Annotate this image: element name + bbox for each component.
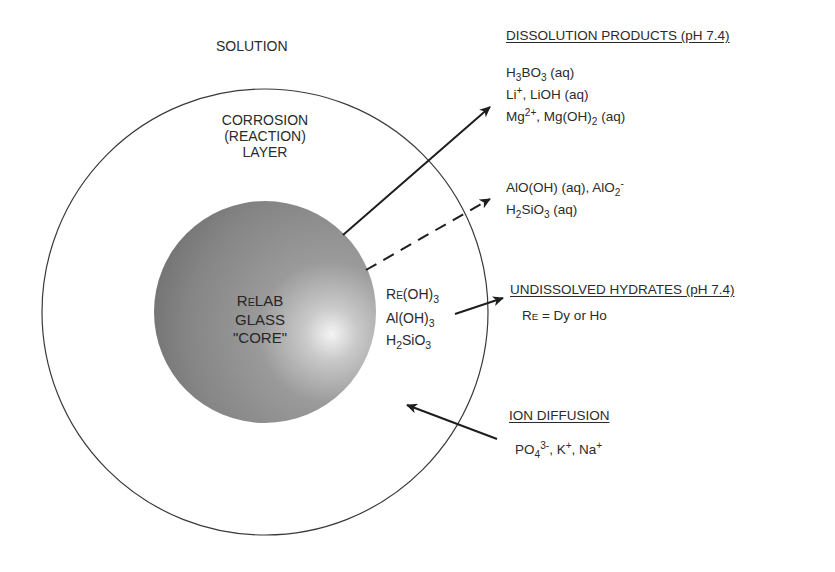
- corrosion-layer-label: CORROSION (REACTION) LAYER: [200, 112, 330, 160]
- undissolved-hydrates-header: UNDISSOLVED HYDRATES (pH 7.4): [510, 282, 735, 298]
- corrosion-line-3: LAYER: [200, 144, 330, 160]
- solution-label: SOLUTION: [216, 38, 288, 54]
- product-alo: AlO(OH) (aq), AlO2-: [506, 177, 624, 199]
- corrosion-line-2: (REACTION): [200, 128, 330, 144]
- ion-diffusion-species: PO43-, K+, Na+: [515, 442, 602, 458]
- core-label: RELAB GLASS "CORE": [205, 292, 315, 347]
- layer-species: RE(OH)3 Al(OH)3 H2SiO3: [386, 283, 439, 351]
- core-line-2: GLASS: [205, 311, 315, 329]
- product-li: Li+, LiOH (aq): [506, 84, 625, 106]
- undissolved-arrow: [455, 298, 503, 314]
- dissolution-arrow: [343, 107, 490, 235]
- dissolution-products-header: DISSOLUTION PRODUCTS (pH 7.4): [506, 28, 730, 44]
- undissolved-hydrates-note: RE = Dy or Ho: [522, 308, 607, 325]
- corrosion-line-1: CORROSION: [200, 112, 330, 128]
- species-re-oh3: RE(OH)3: [386, 283, 439, 307]
- core-line-1: RELAB: [205, 292, 315, 311]
- ion-diffusion-header: ION DIFFUSION: [509, 408, 610, 424]
- core-line-3: "CORE": [205, 329, 315, 347]
- species-h2sio3: H2SiO3: [386, 329, 439, 351]
- dissolution-products-list-2: AlO(OH) (aq), AlO2- H2SiO3 (aq): [506, 177, 624, 221]
- dissolution-dashed-arrow: [366, 199, 490, 270]
- product-mg: Mg2+, Mg(OH)2 (aq): [506, 106, 625, 128]
- product-h3bo3: H3BO3 (aq): [506, 62, 625, 84]
- species-al-oh3: Al(OH)3: [386, 307, 439, 329]
- product-h2sio3: H2SiO3 (aq): [506, 199, 624, 221]
- dissolution-products-list: H3BO3 (aq) Li+, LiOH (aq) Mg2+, Mg(OH)2 …: [506, 62, 625, 128]
